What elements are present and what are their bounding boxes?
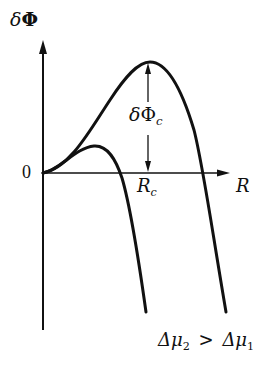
arrow-down-icon: [145, 161, 151, 172]
critical-radius-subscript: c: [151, 186, 157, 199]
y-axis-arrowhead-icon: [39, 40, 47, 54]
x-axis-label: R: [236, 177, 250, 195]
legend-right-subscript: 1: [247, 340, 254, 353]
critical-radius-main: R: [137, 175, 151, 196]
critical-radius-label: Rc: [137, 177, 157, 195]
barrier-height-label: δΦc: [128, 105, 164, 124]
barrier-label-phi: Φ: [140, 103, 156, 125]
legend-left-subscript: 2: [183, 340, 190, 353]
curve-delta-mu-2: [43, 146, 146, 312]
y-axis: [39, 40, 47, 330]
y-axis-label-delta: δ: [10, 8, 21, 30]
x-axis-arrowhead-icon: [217, 170, 230, 177]
legend-relation: Δμ2 > Δμ1: [158, 331, 254, 349]
legend-operator: >: [199, 329, 214, 350]
barrier-label-delta: δ: [129, 103, 140, 125]
legend-left-delta-mu: Δμ: [158, 329, 183, 350]
origin-label: 0: [22, 163, 31, 181]
y-axis-label: δΦ: [10, 10, 38, 29]
curve-delta-mu-1: [43, 62, 226, 312]
arrow-up-icon: [145, 63, 151, 74]
barrier-label-subscript: c: [156, 114, 163, 128]
gibbs-barrier-diagram: [0, 0, 271, 370]
y-axis-label-phi: Φ: [21, 8, 38, 30]
legend-right-delta-mu: Δμ: [222, 329, 247, 350]
